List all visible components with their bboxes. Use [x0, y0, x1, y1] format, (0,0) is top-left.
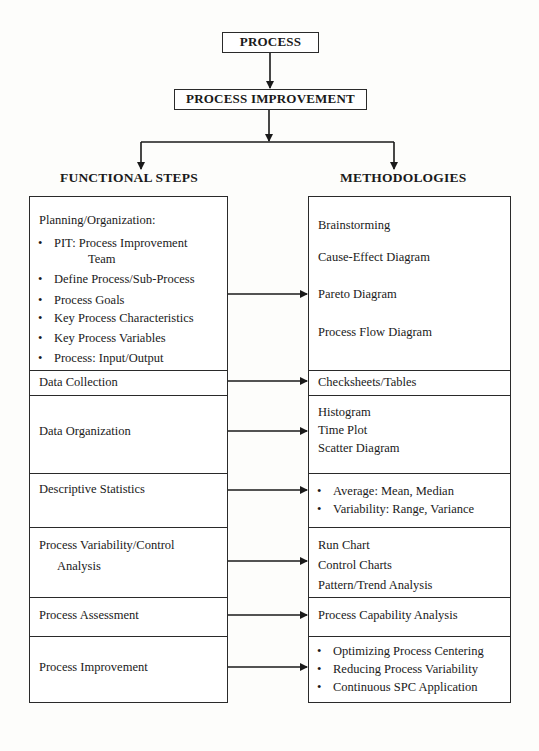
list-item: Continuous SPC Application: [311, 678, 484, 696]
process-label: PROCESS: [240, 34, 301, 49]
row-divider: [309, 597, 510, 598]
method-descriptive-statistics: Average: Mean, Median Variability: Range…: [311, 482, 474, 518]
method-pareto: Pareto Diagram: [318, 287, 397, 302]
row-divider: [30, 636, 227, 637]
list-item: Key Process Characteristics: [32, 310, 195, 326]
step-planning-title: Planning/Organization:: [39, 213, 155, 228]
list-item: Variability: Range, Variance: [311, 500, 474, 518]
method-process-capability: Process Capability Analysis: [318, 608, 458, 623]
methodologies-heading: METHODOLOGIES: [340, 170, 466, 186]
list-item: PIT: Process Improvement Team: [32, 235, 195, 267]
row-divider: [30, 395, 227, 396]
method-checksheets: Checksheets/Tables: [318, 375, 416, 390]
functional-steps-column: Planning/Organization: PIT: Process Impr…: [29, 196, 228, 703]
list-item: Average: Mean, Median: [311, 482, 474, 500]
planning-list: PIT: Process Improvement Team Define Pro…: [32, 235, 195, 366]
step-data-organization: Data Organization: [39, 424, 131, 439]
process-improvement-label: PROCESS IMPROVEMENT: [186, 91, 355, 106]
step-process-assessment: Process Assessment: [39, 608, 139, 623]
row-divider: [309, 636, 510, 637]
method-brainstorming: Brainstorming: [318, 218, 390, 233]
methodologies-column: Brainstorming Cause-Effect Diagram Paret…: [308, 196, 511, 703]
list-item: Reducing Process Variability: [311, 660, 484, 678]
row-divider: [30, 370, 227, 371]
process-box: PROCESS: [222, 32, 319, 53]
step-data-collection: Data Collection: [39, 375, 118, 390]
method-process-variability: Run Chart Control Charts Pattern/Trend A…: [318, 535, 432, 595]
row-divider: [30, 473, 227, 474]
step-descriptive-statistics: Descriptive Statistics: [39, 482, 145, 497]
list-item: Process Goals: [32, 292, 195, 308]
step-process-improvement: Process Improvement: [39, 660, 148, 675]
row-divider: [30, 527, 227, 528]
step-process-variability: Process Variability/Control Analysis: [39, 535, 175, 577]
method-process-flow: Process Flow Diagram: [318, 325, 432, 340]
row-divider: [309, 473, 510, 474]
list-item: Define Process/Sub-Process: [32, 271, 195, 287]
list-item: Optimizing Process Centering: [311, 642, 484, 660]
process-improvement-box: PROCESS IMPROVEMENT: [174, 89, 367, 110]
row-divider: [30, 597, 227, 598]
method-process-improvement: Optimizing Process Centering Reducing Pr…: [311, 642, 484, 696]
row-divider: [309, 370, 510, 371]
list-item: Process: Input/Output: [32, 350, 195, 366]
row-divider: [309, 395, 510, 396]
list-item: Key Process Variables: [32, 330, 195, 346]
functional-steps-heading: FUNCTIONAL STEPS: [60, 170, 198, 186]
row-divider: [309, 527, 510, 528]
method-data-organization: Histogram Time Plot Scatter Diagram: [318, 403, 400, 457]
method-cause-effect: Cause-Effect Diagram: [318, 250, 430, 265]
